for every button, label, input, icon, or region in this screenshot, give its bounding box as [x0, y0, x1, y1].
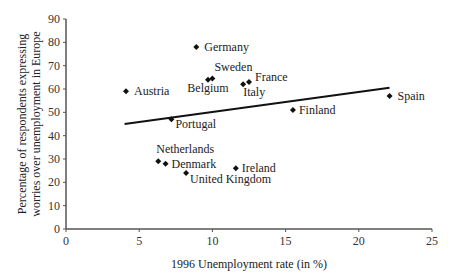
y-tick-label: 10	[48, 199, 60, 213]
data-point-marker	[123, 88, 129, 94]
y-tick-label: 0	[54, 222, 60, 236]
x-tick-label: 5	[136, 234, 142, 248]
point-label: Netherlands	[156, 142, 214, 156]
point-label: Germany	[204, 40, 249, 54]
svg-text:worries over unemployment in E: worries over unemployment in Europe	[29, 31, 43, 216]
point-label: Ireland	[242, 161, 276, 175]
x-tick-label: 25	[426, 234, 438, 248]
y-tick-label: 80	[48, 35, 60, 49]
x-tick-label: 20	[353, 234, 365, 248]
point-label: Finland	[299, 103, 336, 117]
x-tick-label: 15	[280, 234, 292, 248]
data-point-marker	[290, 107, 296, 113]
data-point-marker	[183, 170, 189, 176]
y-tick-label: 70	[48, 59, 60, 73]
x-axis-label: 1996 Unemployment rate (in %)	[171, 257, 327, 271]
data-point-marker	[387, 93, 393, 99]
point-label: Italy	[243, 85, 265, 99]
data-point-marker	[246, 79, 252, 85]
point-label: Portugal	[175, 117, 216, 131]
data-point-marker	[163, 161, 169, 167]
y-axis-label: Percentage of respondents expressingworr…	[15, 31, 43, 216]
data-point-marker	[233, 165, 239, 171]
svg-text:Percentage of respondents expr: Percentage of respondents expressing	[15, 34, 29, 214]
y-tick-label: 20	[48, 175, 60, 189]
data-points: GermanyAustriaSwedenBelgiumFranceItalyFi…	[123, 40, 425, 186]
point-label: France	[255, 70, 288, 84]
point-label: Spain	[398, 89, 425, 103]
y-tick-label: 30	[48, 152, 60, 166]
point-label: Austria	[134, 84, 170, 98]
x-tick-label: 10	[206, 234, 218, 248]
point-label: Sweden	[214, 60, 252, 74]
scatter-chart: Percentage of respondents expressingworr…	[0, 0, 459, 274]
data-point-marker	[193, 44, 199, 50]
y-tick-label: 40	[48, 129, 60, 143]
y-tick-label: 90	[48, 12, 60, 26]
data-point-marker	[155, 158, 161, 164]
y-tick-label: 60	[48, 82, 60, 96]
x-tick-label: 0	[63, 234, 69, 248]
y-tick-label: 50	[48, 105, 60, 119]
point-label: Denmark	[172, 157, 217, 171]
point-label: Belgium	[187, 81, 229, 95]
